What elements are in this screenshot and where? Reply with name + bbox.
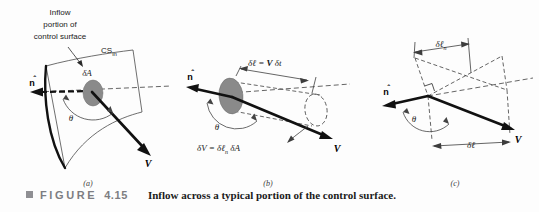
panel-c: δℓn δℓ ̂n θ V (c)	[382, 38, 533, 188]
c-normal-axis-dashed	[428, 78, 533, 96]
panel-a: Inflow portion of control surface CSin δ…	[29, 8, 171, 188]
b-volume-equation: δV = δℓn δA	[197, 143, 240, 155]
figure-caption-bar: FIGURE 4.15 Inflow across a typical port…	[0, 183, 539, 212]
figure-caption-text: Inflow across a typical portion of the c…	[148, 189, 396, 201]
square-bullet-icon	[26, 191, 33, 198]
b-velocity-vector-arrowhead	[319, 131, 333, 139]
inflow-note-line1: Inflow	[50, 8, 71, 17]
c-angle-label: θ	[412, 114, 417, 124]
inflow-note-leader-arrowhead	[77, 60, 83, 67]
b-velocity-vector-label: V	[334, 143, 342, 154]
c-l-dim-arrow-right	[502, 140, 511, 146]
normal-axis-dashed	[36, 86, 171, 92]
b-volume-leader-arrowhead	[287, 136, 295, 144]
normal-vector-label: ̂n	[29, 75, 37, 88]
c-velocity-vector-shaft	[428, 96, 505, 126]
control-surface-patch	[46, 50, 142, 168]
figure-diagram: Inflow portion of control surface CSin δ…	[0, 0, 539, 212]
b-normal-axis-dashed	[230, 84, 350, 93]
angle-arc-arrowhead-start	[63, 95, 70, 101]
normal-vector-arrowhead	[30, 88, 43, 97]
c-normal-vector-arrowhead	[382, 100, 396, 109]
inflow-note-line2: portion of	[43, 20, 77, 29]
b-angle-label: θ	[215, 122, 220, 132]
c-normal-vector-label: ̂n	[383, 84, 391, 97]
figure-word: FIGURE	[40, 189, 97, 201]
b-angle-arc-arrowhead-start	[207, 99, 214, 105]
b-length-dim-arrow-right	[300, 78, 309, 84]
b-angle-arc-arrowhead-end	[251, 114, 257, 122]
c-normal-vector-shaft	[392, 96, 428, 104]
b-length-dim-tick-left	[236, 66, 241, 76]
inflow-note-line3: control surface	[34, 32, 87, 41]
c-construction-diag1	[428, 56, 502, 96]
c-normal-length-label: δℓn	[436, 39, 447, 51]
c-angle-arc-arrowhead-start	[403, 108, 410, 114]
cs-in-label: CSin	[101, 46, 117, 57]
c-construction-lower-left	[428, 96, 432, 140]
c-l-dim-arrow-left	[432, 143, 442, 149]
area-element-label: δA	[82, 68, 92, 78]
c-construction-left-edge	[415, 58, 428, 96]
c-ln-dim-tick-left	[414, 42, 415, 58]
angle-label: θ	[69, 113, 74, 123]
panel-b: δℓ = V δt δV = δℓn δA ̂n θ V (b)	[186, 58, 350, 188]
b-swept-end-ellipse	[303, 93, 329, 128]
c-angle-arc	[403, 112, 449, 132]
b-normal-vector-label: ̂n	[187, 69, 195, 82]
figure-container: Inflow portion of control surface CSin δ…	[0, 0, 539, 212]
b-length-dimension-line	[241, 69, 307, 80]
c-velocity-vector-label: V	[515, 134, 523, 145]
velocity-vector-arrowhead	[137, 143, 151, 156]
b-length-equation: δℓ = V δt	[248, 58, 282, 68]
c-ln-dim-tick-right	[468, 38, 471, 73]
c-construction-right-edge	[502, 56, 507, 90]
c-velocity-vector-arrowhead	[501, 122, 515, 130]
b-normal-vector-arrowhead	[186, 84, 199, 93]
b-length-dim-tick-right	[312, 77, 316, 93]
c-angle-arc-arrowhead-end	[443, 117, 449, 124]
figure-number: 4.15	[104, 189, 128, 201]
b-velocity-vector-shaft	[232, 97, 323, 135]
velocity-vector-label: V	[145, 158, 153, 169]
c-length-label: δℓ	[467, 140, 475, 150]
